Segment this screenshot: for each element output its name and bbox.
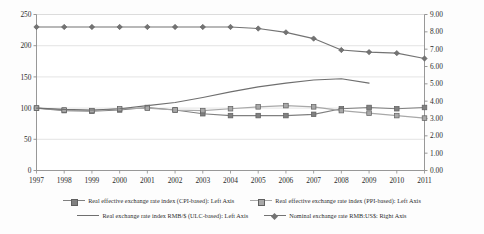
- right-axis-tick-label: 0.00: [430, 166, 443, 175]
- right-axis-tick-label: 2.00: [430, 131, 443, 140]
- right-axis-tick-label: 3.00: [430, 114, 443, 123]
- x-axis-tick-label: 2000: [112, 176, 127, 185]
- legend-key-none-icon: [77, 212, 99, 219]
- series-marker-reer-ppi: [311, 105, 316, 110]
- x-axis-tick-label: 2010: [389, 176, 404, 185]
- legend-item[interactable]: Real effective exchange rate index (CPI-…: [63, 197, 234, 204]
- series-marker-reer-ppi: [394, 113, 399, 118]
- series-marker-reer-ppi: [256, 105, 261, 110]
- legend-item[interactable]: Nominal exchange rate RMB:US$: Right Axi…: [264, 212, 406, 219]
- series-marker-reer-ppi: [284, 103, 289, 108]
- series-marker-reer-ppi: [367, 111, 372, 116]
- right-axis-tick-label: 1.00: [430, 149, 443, 158]
- legend-item[interactable]: Real effective exchange rate index (PPI-…: [250, 197, 421, 204]
- right-axis-tick-label: 5.00: [430, 79, 443, 88]
- series-marker-reer-ppi: [90, 108, 95, 113]
- chart-legend-row-2: Real exchange rate index RMB/$ (ULC-base…: [0, 212, 484, 219]
- series-marker-reer-cpi: [284, 113, 289, 118]
- x-axis-tick-label: 2009: [362, 176, 377, 185]
- left-axis-tick-label: 250: [20, 10, 31, 19]
- legend-item-label: Real effective exchange rate index (CPI-…: [88, 197, 234, 204]
- series-marker-reer-cpi: [228, 113, 233, 118]
- x-axis-tick-label: 1997: [29, 176, 44, 185]
- series-marker-reer-cpi: [367, 105, 372, 110]
- left-axis-tick-label: 150: [20, 73, 31, 82]
- x-axis-tick-label: 2008: [334, 176, 349, 185]
- x-axis-tick-label: 2004: [223, 176, 238, 185]
- left-axis-tick-label: 50: [24, 135, 32, 144]
- series-marker-reer-ppi: [422, 116, 427, 121]
- x-axis-tick-label: 2007: [306, 176, 321, 185]
- plot-background: [37, 15, 425, 171]
- right-axis-tick-label: 8.00: [430, 27, 443, 36]
- x-axis-tick-label: 1999: [85, 176, 100, 185]
- legend-item-label: Real exchange rate index RMB/$ (ULC-base…: [102, 212, 248, 219]
- left-axis-tick-label: 0: [28, 166, 32, 175]
- series-marker-reer-ppi: [145, 106, 150, 111]
- series-marker-reer-ppi: [339, 108, 344, 113]
- legend-item-label: Nominal exchange rate RMB:US$: Right Axi…: [289, 212, 406, 219]
- legend-item-label: Real effective exchange rate index (PPI-…: [275, 197, 421, 204]
- series-marker-reer-cpi: [256, 113, 261, 118]
- legend-key-diamond-icon: [264, 212, 286, 219]
- right-axis-tick-label: 4.00: [430, 97, 443, 106]
- x-axis-tick-label: 2006: [279, 176, 294, 185]
- right-axis-tick-label: 7.00: [430, 45, 443, 54]
- series-marker-reer-ppi: [200, 108, 205, 113]
- x-axis-tick-label: 2001: [140, 176, 155, 185]
- legend-key-square-icon: [63, 197, 85, 204]
- left-axis-tick-label: 100: [20, 104, 31, 113]
- series-marker-reer-cpi: [311, 112, 316, 117]
- chart-legend-row-1: Real effective exchange rate index (CPI-…: [0, 197, 484, 204]
- x-axis-tick-label: 1998: [57, 176, 72, 185]
- legend-key-square-icon: [250, 197, 272, 204]
- series-marker-reer-ppi: [62, 108, 67, 113]
- left-axis-tick-label: 200: [20, 41, 31, 50]
- x-axis-tick-label: 2003: [195, 176, 210, 185]
- right-axis-tick-label: 9.00: [430, 10, 443, 19]
- x-axis-tick-label: 2002: [168, 176, 183, 185]
- x-axis-tick-label: 2011: [417, 176, 432, 185]
- series-marker-reer-ppi: [173, 108, 178, 113]
- right-axis-tick-label: 6.00: [430, 62, 443, 71]
- legend-item[interactable]: Real exchange rate index RMB/$ (ULC-base…: [77, 212, 248, 219]
- series-marker-reer-ppi: [228, 106, 233, 111]
- series-marker-reer-cpi: [422, 105, 427, 110]
- series-marker-reer-cpi: [394, 106, 399, 111]
- exchange-rate-line-chart: 0501001502002500.001.002.003.004.005.006…: [0, 0, 484, 234]
- x-axis-tick-label: 2005: [251, 176, 266, 185]
